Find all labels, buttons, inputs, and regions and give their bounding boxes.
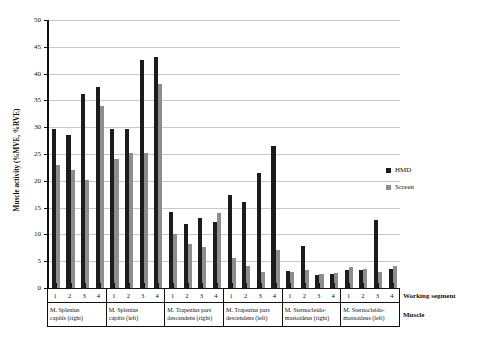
segment-label: 2 bbox=[297, 288, 311, 302]
segment-label: 3 bbox=[77, 288, 91, 302]
muscle-label: M. Spleniuscapitis (right) bbox=[48, 303, 107, 326]
segment-bars bbox=[268, 20, 283, 288]
segment-bars bbox=[107, 20, 122, 288]
segment-bars bbox=[63, 20, 78, 288]
segment-label: 2 bbox=[238, 288, 252, 302]
y-tick bbox=[44, 208, 47, 209]
segment-label: 2 bbox=[121, 288, 135, 302]
muscle-label-line: M. Trapezius pars bbox=[226, 307, 270, 314]
segment-bars bbox=[371, 20, 386, 288]
muscle-label: M. Sternocleido-mastoideus (left) bbox=[341, 303, 399, 326]
bar-hmd bbox=[257, 173, 261, 288]
segment-label: 3 bbox=[370, 288, 384, 302]
bar-groups bbox=[49, 20, 400, 288]
segment-label: 4 bbox=[209, 288, 223, 302]
segment-bars bbox=[180, 20, 195, 288]
segment-label: 1 bbox=[107, 288, 121, 302]
bar-group bbox=[283, 20, 342, 288]
segment-label: 4 bbox=[150, 288, 164, 302]
segment-label: 1 bbox=[224, 288, 238, 302]
y-axis-title: Muscle activity (%MVE, %RVE) bbox=[10, 60, 24, 260]
segment-bars bbox=[78, 20, 93, 288]
plot-area: 05101520253035404550 bbox=[47, 20, 400, 288]
bar-screen bbox=[188, 244, 192, 288]
segment-label: 3 bbox=[136, 288, 150, 302]
y-tick bbox=[44, 74, 47, 75]
bar-screen bbox=[158, 84, 162, 288]
segment-label: 4 bbox=[91, 288, 105, 302]
muscle-label: M. Sternocleido-mastoideus (right) bbox=[283, 303, 342, 326]
segment-label: 3 bbox=[194, 288, 208, 302]
muscle-label: M. Trapezius parsdescendens (right) bbox=[165, 303, 224, 326]
segment-bars bbox=[341, 20, 356, 288]
bar-group bbox=[341, 20, 400, 288]
segment-bars bbox=[297, 20, 312, 288]
muscle-label-line: capitis (right) bbox=[50, 315, 83, 322]
segment-group-cell: 1234 bbox=[224, 288, 283, 302]
y-tick-label: 25 bbox=[34, 150, 41, 158]
bar-screen bbox=[71, 170, 75, 288]
segment-bars bbox=[195, 20, 210, 288]
segment-bars bbox=[224, 20, 239, 288]
muscle-label-line: descendens (right) bbox=[167, 315, 212, 322]
legend-item: HMD bbox=[386, 166, 414, 174]
segment-group-cell: 1234 bbox=[283, 288, 342, 302]
muscle-label-line: M. Trapezius pars bbox=[167, 307, 212, 314]
bar-screen bbox=[217, 213, 221, 288]
y-tick bbox=[44, 181, 47, 182]
y-tick-label: 50 bbox=[34, 16, 41, 24]
bar-group bbox=[49, 20, 108, 288]
y-tick-label: 35 bbox=[34, 96, 41, 104]
segment-bars bbox=[49, 20, 64, 288]
muscle-label-line: M. Sternocleido- bbox=[285, 307, 330, 314]
working-segment-row-title: Working segment bbox=[403, 288, 456, 303]
segment-label: 1 bbox=[165, 288, 179, 302]
bar-screen bbox=[129, 153, 133, 288]
y-tick bbox=[44, 100, 47, 101]
bar-screen bbox=[144, 153, 148, 288]
muscle-label: M. Trapezius parsdescendens (left) bbox=[224, 303, 283, 326]
segment-label: 2 bbox=[356, 288, 370, 302]
legend-label: HMD bbox=[395, 166, 411, 174]
segment-bars bbox=[122, 20, 137, 288]
y-tick bbox=[44, 127, 47, 128]
segment-bars bbox=[93, 20, 108, 288]
muscle-label-line: mastoideus (right) bbox=[285, 315, 330, 322]
bar-group bbox=[224, 20, 283, 288]
muscle-row: M. Spleniuscapitis (right)M. Spleniuscap… bbox=[47, 303, 400, 327]
y-tick-label: 30 bbox=[34, 123, 41, 131]
bar-screen bbox=[85, 180, 89, 288]
muscle-label-line: descendens (left) bbox=[226, 315, 270, 322]
bar-screen bbox=[56, 165, 60, 288]
muscle-row-title: Muscle bbox=[403, 303, 424, 327]
y-tick bbox=[44, 154, 47, 155]
segment-bars bbox=[136, 20, 151, 288]
muscle-label-line: mastoideus (left) bbox=[343, 315, 384, 322]
y-tick-label: 10 bbox=[34, 230, 41, 238]
y-tick bbox=[44, 261, 47, 262]
segment-group-cell: 1234 bbox=[165, 288, 224, 302]
segment-bars bbox=[239, 20, 254, 288]
segment-bars bbox=[385, 20, 400, 288]
muscle-label-line: M. Splenius bbox=[50, 307, 83, 314]
bar-group bbox=[107, 20, 166, 288]
segment-label: 1 bbox=[283, 288, 297, 302]
legend-swatch bbox=[386, 185, 391, 190]
segment-group-cell: 1234 bbox=[107, 288, 166, 302]
legend-item: Screen bbox=[386, 183, 414, 191]
segment-group-cell: 1234 bbox=[341, 288, 399, 302]
segment-bars bbox=[312, 20, 327, 288]
bar-screen bbox=[173, 234, 177, 288]
segment-bars bbox=[166, 20, 181, 288]
segment-label: 1 bbox=[341, 288, 355, 302]
chart-figure: Muscle activity (%MVE, %RVE) 05101520253… bbox=[0, 0, 480, 341]
segment-group-cell: 1234 bbox=[48, 288, 107, 302]
muscle-label-line: M. Sternocleido- bbox=[343, 307, 384, 314]
y-tick-label: 0 bbox=[38, 284, 42, 292]
segment-bars bbox=[210, 20, 225, 288]
segment-label: 3 bbox=[312, 288, 326, 302]
muscle-label-line: capitis (left) bbox=[109, 315, 139, 322]
muscle-label-line: M. Splenius bbox=[109, 307, 139, 314]
y-tick-label: 45 bbox=[34, 43, 41, 51]
y-tick bbox=[44, 47, 47, 48]
